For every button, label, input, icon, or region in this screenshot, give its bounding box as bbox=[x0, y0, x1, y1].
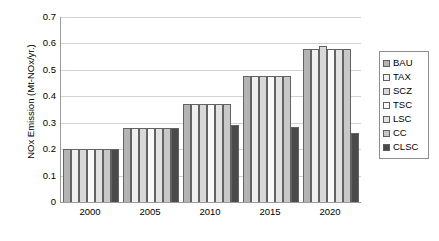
legend-swatch-icon bbox=[383, 116, 390, 123]
bar bbox=[251, 76, 259, 202]
bar bbox=[231, 125, 239, 202]
bar bbox=[343, 49, 351, 202]
bar bbox=[163, 128, 171, 202]
bar bbox=[123, 128, 131, 202]
y-axis-tick-label: 0.7 bbox=[28, 12, 56, 22]
bar-group bbox=[63, 17, 119, 202]
y-axis-tick-label: 0.5 bbox=[28, 65, 56, 75]
bar bbox=[215, 104, 223, 202]
bar bbox=[155, 128, 163, 202]
legend-item: CC bbox=[383, 126, 425, 140]
bar-group bbox=[243, 17, 299, 202]
x-axis-tick-label: 2005 bbox=[120, 206, 180, 217]
legend-label: TAX bbox=[393, 72, 411, 82]
bar bbox=[199, 104, 207, 202]
bar bbox=[311, 49, 319, 202]
bar bbox=[319, 46, 327, 202]
bar-groups bbox=[61, 17, 361, 202]
nox-emission-bar-chart: NOx Emission (Mt-NOx/yr.) 0.70.60.50.40.… bbox=[0, 0, 439, 241]
x-axis-tick-label: 2000 bbox=[60, 206, 120, 217]
legend-item: SCZ bbox=[383, 84, 425, 98]
bar bbox=[71, 149, 79, 202]
bar bbox=[139, 128, 147, 202]
bar bbox=[183, 104, 191, 202]
y-axis-tick-label: 0.6 bbox=[28, 38, 56, 48]
legend-item: LSC bbox=[383, 112, 425, 126]
legend-label: TSC bbox=[393, 100, 412, 110]
legend-label: CC bbox=[393, 128, 407, 138]
legend: BAUTAXSCZTSCLSCCCCLSC bbox=[379, 51, 429, 159]
legend-swatch-icon bbox=[383, 130, 390, 137]
legend-swatch-icon bbox=[383, 88, 390, 95]
bar bbox=[131, 128, 139, 202]
y-axis-tick-label: 0.4 bbox=[28, 91, 56, 101]
bar bbox=[111, 149, 119, 202]
x-axis-tick-label: 2015 bbox=[240, 206, 300, 217]
bar bbox=[223, 104, 231, 202]
x-axis-tick-label: 2020 bbox=[300, 206, 360, 217]
legend-item: TSC bbox=[383, 98, 425, 112]
bar bbox=[283, 76, 291, 202]
legend-swatch-icon bbox=[383, 144, 390, 151]
bar bbox=[335, 49, 343, 202]
bar bbox=[207, 104, 215, 202]
legend-label: LSC bbox=[393, 114, 411, 124]
bar bbox=[103, 149, 111, 202]
legend-label: SCZ bbox=[393, 86, 412, 96]
bar bbox=[191, 104, 199, 202]
bar bbox=[147, 128, 155, 202]
bar bbox=[87, 149, 95, 202]
bar bbox=[63, 149, 71, 202]
bar bbox=[259, 76, 267, 202]
plot-area bbox=[60, 17, 361, 203]
legend-item: BAU bbox=[383, 56, 425, 70]
legend-swatch-icon bbox=[383, 60, 390, 67]
x-axis-tick-labels: 20002005201020152020 bbox=[60, 206, 360, 217]
bar bbox=[327, 49, 335, 202]
bar bbox=[303, 49, 311, 202]
legend-item: CLSC bbox=[383, 140, 425, 154]
bar bbox=[95, 149, 103, 202]
bar bbox=[267, 76, 275, 202]
x-axis-tick-label: 2010 bbox=[180, 206, 240, 217]
bar bbox=[275, 76, 283, 202]
legend-item: TAX bbox=[383, 70, 425, 84]
legend-label: BAU bbox=[393, 58, 413, 68]
bar bbox=[351, 133, 359, 202]
bar-group bbox=[183, 17, 239, 202]
legend-swatch-icon bbox=[383, 74, 390, 81]
bar-group bbox=[303, 17, 359, 202]
bar bbox=[171, 128, 179, 202]
bar bbox=[243, 76, 251, 202]
legend-swatch-icon bbox=[383, 102, 390, 109]
bar-group bbox=[123, 17, 179, 202]
bar bbox=[79, 149, 87, 202]
y-axis-tick-label: 0.2 bbox=[28, 144, 56, 154]
y-axis-tick-label: 0.1 bbox=[28, 171, 56, 181]
bar bbox=[291, 127, 299, 202]
y-axis-tick-label: 0 bbox=[28, 197, 56, 207]
legend-label: CLSC bbox=[393, 142, 418, 152]
y-axis-tick-label: 0.3 bbox=[28, 118, 56, 128]
y-axis-tick-labels: 0.70.60.50.40.30.20.10 bbox=[28, 0, 56, 241]
